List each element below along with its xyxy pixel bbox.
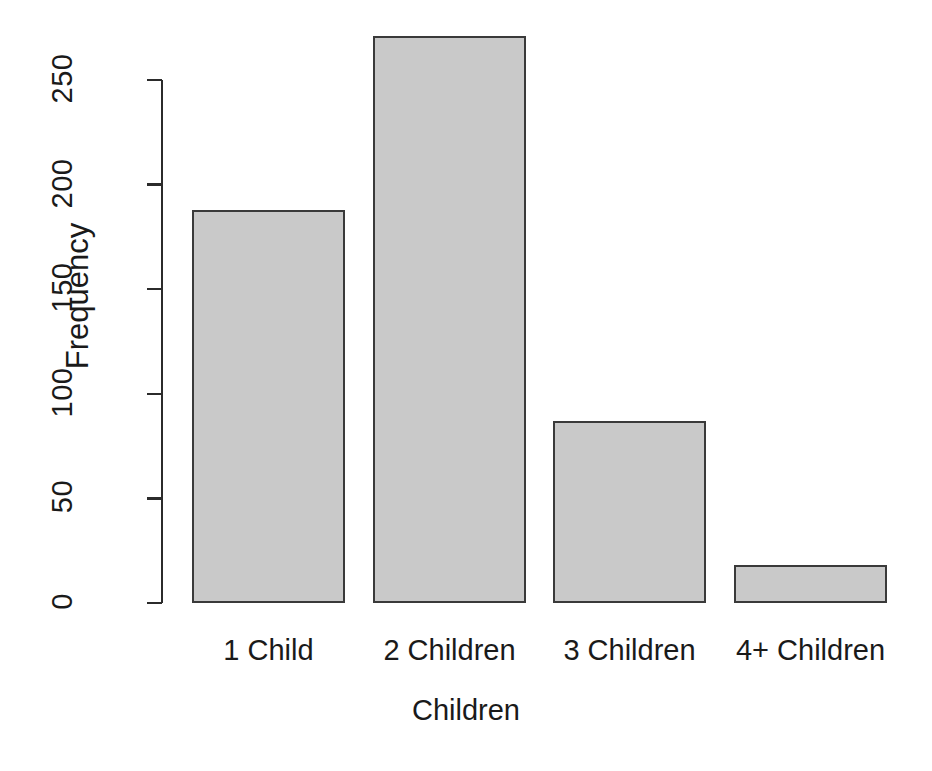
bar [373,36,526,603]
bar [192,210,345,603]
y-axis-tick [147,497,162,499]
y-axis-tick-label: 0 [46,542,79,662]
y-axis-tick [147,288,162,290]
bar [553,421,706,603]
y-axis-tick [147,602,162,604]
y-axis-tick [147,79,162,81]
y-axis-tick-label: 50 [46,437,79,557]
plot-area: 050100150200250 Frequency 1 Child2 Child… [0,0,932,771]
y-axis-tick [147,183,162,185]
y-axis-line [161,80,163,603]
barplot-figure: 050100150200250 Frequency 1 Child2 Child… [0,0,932,771]
x-axis-title: Children [0,694,932,727]
x-axis-tick-label: 4+ Children [704,634,917,667]
y-axis-tick-label: 250 [46,19,79,139]
y-axis-tick [147,393,162,395]
bar [734,565,887,603]
y-axis-title: Frequency [60,196,96,396]
